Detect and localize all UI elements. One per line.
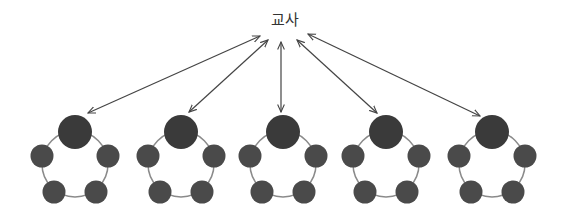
member-node — [448, 145, 471, 168]
group-leader-node — [369, 115, 403, 149]
group-leader-node — [475, 115, 509, 149]
student-group-1 — [31, 115, 120, 204]
member-node — [191, 181, 214, 204]
member-node — [502, 181, 525, 204]
arrows — [88, 34, 480, 116]
group-leader-node — [266, 115, 300, 149]
member-node — [203, 145, 226, 168]
arrow-group-4 — [297, 40, 377, 113]
member-node — [43, 181, 66, 204]
group-leader-node — [58, 115, 92, 149]
member-node — [85, 181, 108, 204]
member-node — [149, 181, 172, 204]
member-node — [408, 145, 431, 168]
arrow-group-5 — [308, 34, 480, 116]
student-group-5 — [448, 115, 537, 204]
arrow-group-1 — [88, 36, 260, 113]
student-group-2 — [137, 115, 226, 204]
student-group-3 — [239, 115, 328, 204]
arrow-group-2 — [189, 40, 268, 112]
student-group-4 — [342, 115, 431, 204]
member-node — [460, 181, 483, 204]
member-node — [31, 145, 54, 168]
member-node — [354, 181, 377, 204]
member-node — [239, 145, 262, 168]
member-node — [97, 145, 120, 168]
member-node — [137, 145, 160, 168]
member-node — [251, 181, 274, 204]
member-node — [514, 145, 537, 168]
member-node — [305, 145, 328, 168]
member-node — [342, 145, 365, 168]
member-node — [396, 181, 419, 204]
group-leader-node — [164, 115, 198, 149]
group-diagram — [0, 0, 570, 216]
member-node — [293, 181, 316, 204]
